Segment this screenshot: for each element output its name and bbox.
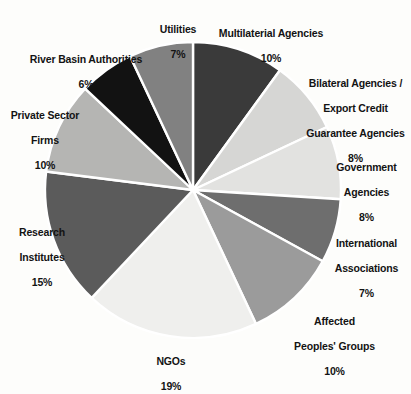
- slice-label-name-line1: Research: [2, 226, 82, 239]
- slice-label-utilities: Utilities 7%: [143, 10, 213, 73]
- slice-label-name: Utilities: [143, 23, 213, 36]
- slice-label-value: 10%: [282, 365, 387, 378]
- slice-label-name-line2: Firms: [2, 134, 88, 147]
- slice-label-international-associations: International Associations 7%: [322, 224, 411, 312]
- slice-label-name-line1: Bilateral Agencies /: [300, 77, 411, 90]
- slice-label-name-line2: Institutes: [2, 251, 82, 264]
- slice-label-name-line2: Export Credit: [300, 102, 411, 115]
- slice-label-name-line1: Affected: [282, 315, 387, 328]
- slice-label-private-sector-firms: Private Sector Firms 10%: [2, 96, 88, 184]
- slice-label-name-line3: Guarantee Agencies: [300, 127, 411, 140]
- slice-label-government-agencies: Government Agencies 8%: [322, 148, 411, 236]
- slice-label-value: 10%: [2, 159, 88, 172]
- slice-label-name: Multilaterial Agencies: [206, 27, 336, 40]
- slice-label-name-line1: Private Sector: [2, 109, 88, 122]
- slice-label-affected-peoples-groups: Affected Peoples' Groups 10%: [282, 302, 387, 390]
- slice-label-name-line2: Associations: [322, 262, 411, 275]
- slice-label-name-line1: International: [322, 237, 411, 250]
- slice-label-value: 15%: [2, 276, 82, 289]
- slice-label-name-line2: Agencies: [322, 186, 411, 199]
- slice-label-value: 8%: [322, 211, 411, 224]
- slice-label-name: NGOs: [131, 355, 211, 368]
- slice-label-value: 6%: [18, 78, 154, 91]
- slice-label-value: 7%: [322, 287, 411, 300]
- slice-label-river-basin-authorities: River Basin Authorities 6%: [18, 40, 154, 103]
- slice-label-ngos: NGOs 19%: [131, 342, 211, 394]
- slice-label-name: River Basin Authorities: [18, 53, 154, 66]
- slice-label-value: 7%: [143, 48, 213, 61]
- slice-label-value: 19%: [131, 380, 211, 393]
- slice-label-research-institutes: Research Institutes 15%: [2, 213, 82, 301]
- slice-label-name-line1: Government: [322, 161, 411, 174]
- slice-label-name-line2: Peoples' Groups: [282, 340, 387, 353]
- slice-label-value: 10%: [206, 52, 336, 65]
